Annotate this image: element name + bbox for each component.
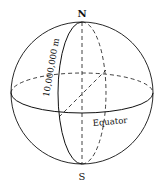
equator-label: Equator [92,115,128,128]
meridian-front-solid [58,22,82,164]
sphere-svg: N S Equator 10,000,000 m [0,0,158,185]
south-label: S [79,171,86,182]
diagonal-dashed-line [59,70,106,117]
meridian-back-dashed [82,22,106,164]
sphere-diagram: N S Equator 10,000,000 m [0,0,158,185]
north-label: N [77,8,86,19]
equator-back-dashed [11,73,153,93]
